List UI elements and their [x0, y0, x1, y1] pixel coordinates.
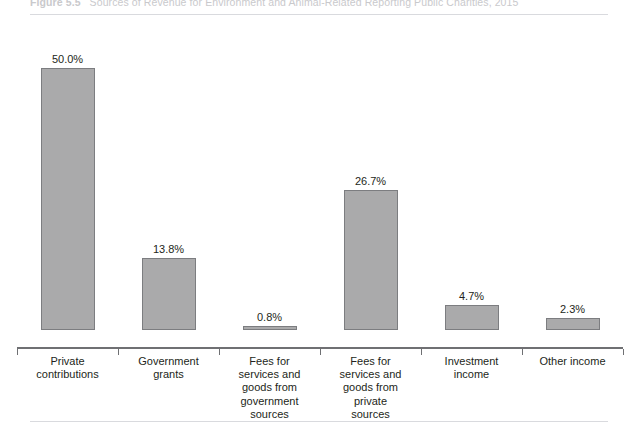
bar-value-label: 26.7%	[330, 175, 412, 187]
bar-value-label: 0.8%	[229, 311, 311, 323]
figure-container: Figure 5.5Sources of Revenue for Environ…	[0, 0, 639, 432]
x-axis-category-label: Fees forservices andgoods fromgovernment…	[218, 355, 322, 421]
divider-top	[30, 14, 608, 15]
bar-group[interactable]: 0.8%	[243, 1, 297, 330]
category-label-line: Fees for	[319, 355, 423, 368]
x-axis-category-label: Fees forservices andgoods fromprivatesou…	[319, 355, 423, 421]
category-label-line: goods from	[218, 381, 322, 394]
category-label-line: Government	[117, 355, 221, 368]
bar-value-label: 13.8%	[128, 243, 210, 255]
category-label-line: services and	[218, 368, 322, 381]
category-label-line: sources	[218, 408, 322, 421]
bar-group[interactable]: 26.7%	[344, 1, 398, 330]
bar-group[interactable]: 50.0%	[41, 1, 95, 330]
bar-value-label: 50.0%	[27, 53, 109, 65]
bar[interactable]	[546, 318, 600, 330]
bar-value-label: 2.3%	[532, 303, 614, 315]
category-label-line: income	[420, 368, 524, 381]
bar[interactable]	[41, 68, 95, 330]
chart-plot-area: 50.0%13.8%0.8%26.7%4.7%2.3% Privatecontr…	[0, 18, 639, 330]
x-axis-category-label: Other income	[521, 355, 625, 368]
bar[interactable]	[445, 305, 499, 330]
bar[interactable]	[344, 190, 398, 330]
category-label-line: services and	[319, 368, 423, 381]
bar-group[interactable]: 2.3%	[546, 1, 600, 330]
category-label-line: goods from	[319, 381, 423, 394]
x-axis-category-label: Privatecontributions	[16, 355, 120, 381]
category-label-line: Investment	[420, 355, 524, 368]
bar-group[interactable]: 13.8%	[142, 1, 196, 330]
bar-group[interactable]: 4.7%	[445, 1, 499, 330]
x-axis-category-label: Investmentincome	[420, 355, 524, 381]
category-label-line: Other income	[521, 355, 625, 368]
category-label-line: Private	[16, 355, 120, 368]
category-label-line: contributions	[16, 368, 120, 381]
bar[interactable]	[142, 258, 196, 330]
bar-value-label: 4.7%	[431, 290, 513, 302]
category-label-line: private	[319, 395, 423, 408]
category-label-line: government	[218, 395, 322, 408]
bar[interactable]	[243, 326, 297, 330]
category-label-line: Fees for	[218, 355, 322, 368]
category-label-line: sources	[319, 408, 423, 421]
divider-bottom	[30, 421, 608, 422]
category-label-line: grants	[117, 368, 221, 381]
x-axis-category-label: Governmentgrants	[117, 355, 221, 381]
figure-title: Figure 5.5Sources of Revenue for Environ…	[30, 0, 630, 8]
